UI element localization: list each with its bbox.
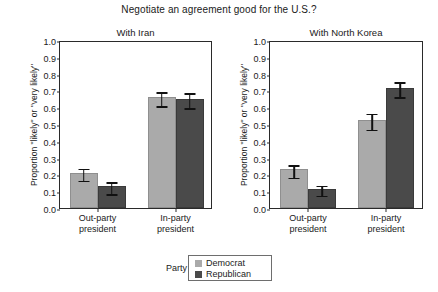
y-tick-label: 0.5 bbox=[253, 122, 266, 131]
y-tick-label: 0.7 bbox=[253, 88, 266, 97]
y-tick-label: 0.1 bbox=[43, 189, 56, 198]
legend-item-democrat: Democrat bbox=[195, 258, 245, 269]
y-tick-mark bbox=[267, 176, 270, 177]
x-tick-mark bbox=[308, 208, 309, 212]
y-tick-mark bbox=[57, 159, 60, 160]
y-tick-label: 0.2 bbox=[43, 172, 56, 181]
bar-democrat-in-party-president bbox=[358, 120, 386, 208]
panel-title: With North Korea bbox=[269, 27, 423, 38]
error-bar bbox=[371, 114, 373, 130]
y-tick-label: 0.6 bbox=[253, 105, 266, 114]
y-tick-mark bbox=[57, 75, 60, 76]
y-tick-label: 0.5 bbox=[43, 122, 56, 131]
error-bar bbox=[189, 93, 191, 108]
error-bar bbox=[111, 182, 113, 194]
error-bar bbox=[293, 165, 295, 178]
error-bar-cap-upper bbox=[156, 92, 167, 94]
error-bar bbox=[399, 82, 401, 97]
error-bar-cap-lower bbox=[78, 181, 89, 183]
error-bar-cap-lower bbox=[367, 130, 378, 132]
y-tick-mark bbox=[57, 42, 60, 43]
y-tick-label: 0.3 bbox=[253, 155, 266, 164]
x-tick-mark bbox=[97, 208, 98, 212]
error-bar-cap-upper bbox=[184, 93, 195, 95]
y-tick-mark bbox=[57, 193, 60, 194]
bar-republican-in-party-president bbox=[176, 99, 204, 208]
y-tick-label: 0.9 bbox=[43, 54, 56, 63]
figure: Negotiate an agreement good for the U.S.… bbox=[0, 0, 438, 292]
legend-swatch-democrat bbox=[195, 260, 202, 267]
x-tick-mark bbox=[386, 208, 387, 212]
y-tick-mark bbox=[267, 159, 270, 160]
y-tick-mark bbox=[57, 210, 60, 211]
plot-area: 0.00.10.20.30.40.50.60.70.80.91.0Out-par… bbox=[269, 41, 423, 209]
y-tick-mark bbox=[57, 109, 60, 110]
plot-area: 0.00.10.20.30.40.50.60.70.80.91.0Out-par… bbox=[59, 41, 212, 209]
legend: Party Democrat Republican bbox=[188, 255, 272, 281]
legend-item-republican: Republican bbox=[195, 269, 251, 280]
y-tick-label: 0.7 bbox=[43, 88, 56, 97]
y-tick-label: 0.2 bbox=[253, 172, 266, 181]
y-axis-label: Proportion "likely" or "very likely" bbox=[239, 41, 249, 209]
y-tick-mark bbox=[267, 142, 270, 143]
bar-democrat-in-party-president bbox=[148, 97, 176, 208]
panel-with-iran: With Iran Proportion "likely" or "very l… bbox=[59, 41, 212, 209]
y-tick-label: 0.1 bbox=[253, 189, 266, 198]
error-bar-cap-lower bbox=[289, 178, 300, 180]
y-tick-mark bbox=[57, 142, 60, 143]
y-tick-mark bbox=[267, 109, 270, 110]
error-bar-cap-upper bbox=[289, 165, 300, 167]
legend-label-democrat: Democrat bbox=[206, 259, 245, 268]
y-tick-label: 0.8 bbox=[43, 71, 56, 80]
y-tick-label: 1.0 bbox=[43, 38, 56, 47]
y-tick-label: 0.0 bbox=[43, 206, 56, 215]
y-tick-label: 0.0 bbox=[253, 206, 266, 215]
panel-with-north-korea: With North Korea Proportion "likely" or … bbox=[269, 41, 423, 209]
error-bar-cap-lower bbox=[395, 97, 406, 99]
legend-swatch-republican bbox=[195, 271, 202, 278]
y-tick-label: 0.4 bbox=[43, 138, 56, 147]
y-tick-label: 0.3 bbox=[43, 155, 56, 164]
y-tick-mark bbox=[57, 92, 60, 93]
legend-label-republican: Republican bbox=[206, 270, 251, 279]
x-tick-label: In-partypresident bbox=[157, 213, 194, 235]
error-bar-cap-upper bbox=[317, 186, 328, 188]
error-bar-cap-lower bbox=[106, 194, 117, 196]
y-tick-mark bbox=[267, 193, 270, 194]
y-tick-mark bbox=[267, 75, 270, 76]
error-bar-cap-upper bbox=[78, 169, 89, 171]
legend-title: Party bbox=[155, 263, 187, 273]
x-tick-label: In-partypresident bbox=[367, 213, 404, 235]
bar-republican-in-party-president bbox=[386, 88, 414, 208]
y-tick-label: 0.6 bbox=[43, 105, 56, 114]
error-bar-cap-lower bbox=[317, 196, 328, 198]
y-tick-label: 0.8 bbox=[253, 71, 266, 80]
y-tick-mark bbox=[267, 92, 270, 93]
x-tick-label: Out-partypresident bbox=[79, 213, 117, 235]
figure-title: Negotiate an agreement good for the U.S.… bbox=[0, 4, 438, 15]
y-tick-mark bbox=[57, 58, 60, 59]
error-bar bbox=[161, 92, 163, 106]
error-bar-cap-upper bbox=[367, 114, 378, 116]
y-axis-label: Proportion "likely" or "very likely" bbox=[29, 41, 39, 209]
x-tick-label: Out-partypresident bbox=[289, 213, 327, 235]
y-tick-mark bbox=[267, 42, 270, 43]
panel-title: With Iran bbox=[59, 27, 212, 38]
error-bar-cap-lower bbox=[184, 108, 195, 110]
y-tick-mark bbox=[267, 210, 270, 211]
error-bar-cap-upper bbox=[395, 82, 406, 84]
x-tick-mark bbox=[175, 208, 176, 212]
y-tick-label: 1.0 bbox=[253, 38, 266, 47]
y-tick-mark bbox=[267, 58, 270, 59]
y-tick-mark bbox=[267, 126, 270, 127]
error-bar bbox=[83, 169, 85, 181]
y-tick-mark bbox=[57, 176, 60, 177]
error-bar-cap-upper bbox=[106, 182, 117, 184]
y-tick-mark bbox=[57, 126, 60, 127]
y-tick-label: 0.9 bbox=[253, 54, 266, 63]
y-tick-label: 0.4 bbox=[253, 138, 266, 147]
error-bar-cap-lower bbox=[156, 106, 167, 108]
